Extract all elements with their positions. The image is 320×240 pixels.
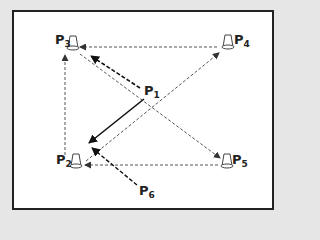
- edge-p2-p4: [86, 53, 219, 161]
- label-p3: P3: [55, 33, 71, 49]
- label-p6: P6: [139, 184, 155, 200]
- label-p5-main: P: [232, 152, 242, 167]
- label-p4-sub: 4: [244, 39, 250, 49]
- label-p1: P1: [144, 84, 160, 100]
- label-p5: P5: [232, 153, 248, 169]
- label-p4: P4: [234, 33, 250, 49]
- edge-p1-p3: [91, 56, 140, 88]
- label-p2-main: P: [56, 152, 66, 167]
- label-p6-sub: 6: [149, 190, 155, 200]
- label-p2: P2: [56, 153, 72, 169]
- edge-p6-p2: [92, 148, 137, 185]
- label-p3-main: P: [55, 32, 65, 47]
- label-p1-main: P: [144, 83, 154, 98]
- label-p4-main: P: [234, 32, 244, 47]
- label-p2-sub: 2: [66, 159, 72, 169]
- cone-icon: [222, 35, 234, 49]
- label-p3-sub: 3: [65, 39, 71, 49]
- label-p5-sub: 5: [242, 159, 248, 169]
- label-p1-sub: 1: [154, 90, 160, 100]
- edge-p1-p2: [89, 99, 144, 143]
- cone-icon: [70, 154, 82, 168]
- label-p6-main: P: [139, 183, 149, 198]
